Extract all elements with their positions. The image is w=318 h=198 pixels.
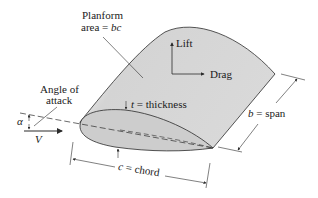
planform-label-line2: area = bc xyxy=(81,21,122,33)
chord-dimension-right xyxy=(165,176,206,183)
alpha-symbol: α xyxy=(17,115,23,127)
span-dimension-lower xyxy=(238,124,258,150)
planform-label-line1: Planform xyxy=(82,9,123,21)
thickness-label: t = thickness xyxy=(131,98,187,110)
wing-diagram: Planform area = bc Lift Drag Angle of at… xyxy=(0,0,318,198)
chord-extension-leading xyxy=(70,142,73,165)
angle-of-attack-label-line2: attack xyxy=(46,94,73,106)
lift-label: Lift xyxy=(176,37,193,49)
velocity-label: V xyxy=(35,133,43,145)
chord-dimension-left xyxy=(73,159,115,167)
span-dimension-upper xyxy=(276,79,297,103)
angle-of-attack-leader xyxy=(34,107,57,126)
span-label: b = span xyxy=(248,107,286,119)
span-extension-tip xyxy=(281,74,305,80)
chord-label: c = chord xyxy=(117,160,160,178)
drag-label: Drag xyxy=(210,68,232,80)
chord-extension-trailing xyxy=(206,163,210,188)
